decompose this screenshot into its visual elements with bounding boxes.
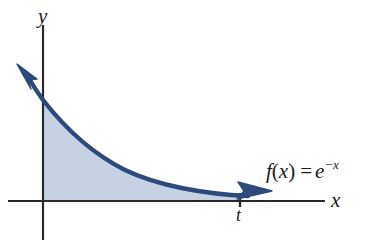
curve-arrowhead-right bbox=[237, 182, 272, 199]
shaded-area-under-curve bbox=[43, 100, 240, 201]
function-base-e: e bbox=[315, 159, 324, 183]
function-exponent: −x bbox=[324, 157, 339, 172]
function-equation-label: f(x)=e−x bbox=[266, 159, 339, 182]
x-axis-label: x bbox=[331, 190, 340, 211]
function-close-paren: ) bbox=[288, 159, 295, 183]
t-tick-label: t bbox=[236, 206, 241, 224]
function-open-paren: ( bbox=[272, 159, 279, 183]
y-axis-label: y bbox=[38, 6, 47, 27]
exponential-decay-figure: y x t f(x)=e−x bbox=[0, 0, 368, 245]
function-argument-x: x bbox=[279, 159, 288, 183]
function-equals-sign: = bbox=[300, 159, 312, 183]
plot-canvas bbox=[0, 0, 368, 245]
